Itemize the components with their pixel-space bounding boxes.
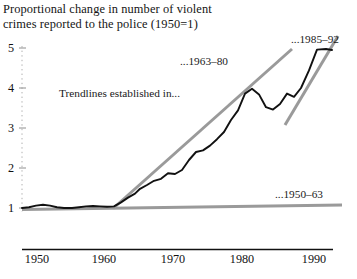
y-tick-label-3: 3 <box>0 121 14 136</box>
data-line-violent-crimes <box>22 49 332 208</box>
x-tick-label-1950: 1950 <box>17 252 57 267</box>
crime-trend-chart: Proportional change in number of violent… <box>0 0 357 279</box>
x-tick-label-1970: 1970 <box>153 252 193 267</box>
y-tick-label-5: 5 <box>0 41 14 56</box>
x-tick-label-1960: 1960 <box>84 252 124 267</box>
annotation-trendline-1950-63: ...1950–63 <box>275 188 323 200</box>
annotation-trendline-1963-80: ...1963–80 <box>180 55 228 67</box>
annotation-trendline-1985-92: ...1985–92 <box>291 33 339 45</box>
x-tick-label-1980: 1980 <box>222 252 262 267</box>
y-tick-label-1: 1 <box>0 201 14 216</box>
y-tick-label-4: 4 <box>0 81 14 96</box>
trendline-1963-80 <box>113 49 292 209</box>
y-tick-label-2: 2 <box>0 161 14 176</box>
x-tick-label-1990: 1990 <box>294 252 334 267</box>
annotation-trendlines-lead-in: Trendlines established in... <box>59 87 180 99</box>
